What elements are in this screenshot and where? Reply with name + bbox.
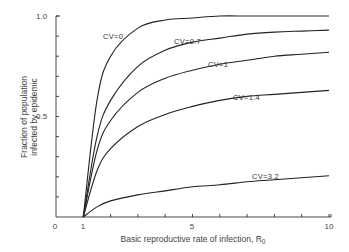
x-tick-label-1: 1 xyxy=(81,222,86,231)
x-tick-label-10: 10 xyxy=(325,222,334,231)
y-axis-label-line1: Fraction of population xyxy=(19,76,29,158)
curve-label-cv-0-7: CV=0.7 xyxy=(174,37,201,46)
curve-cv-3-2 xyxy=(83,176,329,217)
x-axis-label: Basic reproductive rate of infection, R0 xyxy=(121,234,266,245)
curve-label-cv-3-2: CV=3.2 xyxy=(252,172,279,181)
chart: 1.0 0.5 0 1 5 10 Basic reproductive rate… xyxy=(0,0,349,252)
x-tick-label-5: 5 xyxy=(190,222,195,231)
curve-label-cv-1-4: CV=1.4 xyxy=(233,93,260,102)
curve-cv-1 xyxy=(83,52,329,217)
curve-cv-0-7 xyxy=(83,30,329,217)
curve-label-cv-0: CV=0 xyxy=(103,32,123,41)
curve-cv-0 xyxy=(83,16,329,217)
curves xyxy=(83,16,329,217)
y-axis-label: Fraction of population infected by epide… xyxy=(19,76,39,158)
y-tick-label-1: 1.0 xyxy=(36,12,48,21)
y-axis-label-line2: infected by epidemic xyxy=(29,78,39,156)
curve-label-cv-1: CV=1 xyxy=(208,60,228,69)
x-tick-label-0: 0 xyxy=(53,222,58,231)
